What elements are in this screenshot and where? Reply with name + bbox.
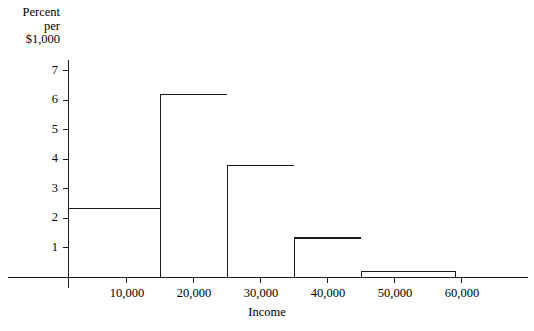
x-tick-label: 50,000 <box>360 286 430 301</box>
x-tick-label: 20,000 <box>159 286 229 301</box>
histogram-bar <box>160 94 227 277</box>
y-tick-label: 2 <box>4 210 58 225</box>
x-tick-label: 40,000 <box>293 286 363 301</box>
y-tick-label: 7 <box>4 63 58 78</box>
histogram-bar <box>294 238 361 277</box>
histogram-bar <box>361 271 455 277</box>
y-tick-label: 3 <box>4 181 58 196</box>
y-tick-label: 1 <box>4 240 58 255</box>
y-tick-label: 6 <box>4 92 58 107</box>
x-tick-label: 30,000 <box>226 286 296 301</box>
chart-canvas <box>0 0 534 331</box>
histogram-figure: Percent per $1,000 1234567 10,00020,0003… <box>0 0 534 331</box>
histogram-bars <box>68 94 455 277</box>
x-axis-title: Income <box>0 305 534 320</box>
x-tick-label: 10,000 <box>92 286 162 301</box>
histogram-bar <box>227 166 294 277</box>
y-tick-label: 4 <box>4 151 58 166</box>
y-tick-label: 5 <box>4 122 58 137</box>
x-tick-label: 60,000 <box>427 286 497 301</box>
